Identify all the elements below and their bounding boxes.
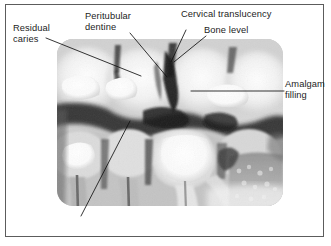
label-cervical-translucency: Cervical translucency	[181, 9, 271, 20]
label-bone-level: Bone level	[204, 25, 248, 36]
label-residual-caries: Residual caries	[13, 23, 50, 44]
label-amalgam-filling: Amalgam filling	[285, 79, 325, 100]
figure-container: Residual caries Peritubular dentine Cerv…	[0, 0, 331, 246]
label-peritubular-dentine: Peritubular dentine	[85, 11, 131, 32]
bitewing-radiograph	[57, 39, 283, 206]
radiograph-clip	[57, 39, 283, 206]
